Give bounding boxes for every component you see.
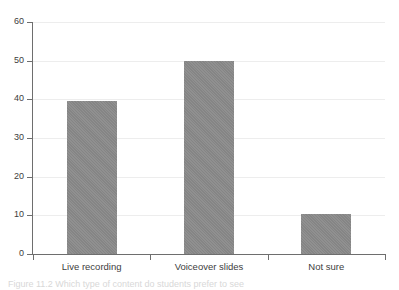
- y-axis-tick: [27, 99, 32, 100]
- y-axis-tick-label-wrap: 40: [0, 94, 24, 103]
- x-axis-category-label: Voiceover slides: [150, 261, 267, 272]
- x-axis-category-label: Live recording: [33, 261, 150, 272]
- y-axis-tick-label: 50: [2, 56, 24, 65]
- y-axis-tick-label-wrap: 10: [0, 210, 24, 219]
- y-axis-tick-label-wrap: 60: [0, 17, 24, 26]
- y-axis-tick-label: 10: [2, 210, 24, 219]
- y-axis-tick-label: 20: [2, 172, 24, 181]
- x-axis-line: [33, 254, 386, 255]
- x-axis-tick: [150, 255, 151, 260]
- bar: [301, 214, 351, 254]
- x-axis-tick: [385, 255, 386, 260]
- y-axis-tick: [27, 61, 32, 62]
- y-axis-tick: [27, 22, 32, 23]
- y-axis-tick: [27, 215, 32, 216]
- x-axis-tick: [268, 255, 269, 260]
- y-axis-tick-label: 60: [2, 17, 24, 26]
- y-axis-tick: [27, 177, 32, 178]
- y-axis-tick-label-wrap: 50: [0, 56, 24, 65]
- gridline: [33, 22, 385, 23]
- y-axis-tick-label: 30: [2, 133, 24, 142]
- y-axis-tick-label-wrap: 30: [0, 133, 24, 142]
- figure-caption: Figure 11.2 Which type of content do stu…: [8, 279, 391, 290]
- plot-area: [33, 22, 385, 254]
- y-axis-tick-label: 0: [2, 249, 24, 258]
- x-axis-category-label: Not sure: [268, 261, 385, 272]
- y-axis-tick-label: 40: [2, 94, 24, 103]
- y-axis-tick: [27, 254, 32, 255]
- x-axis-tick: [33, 255, 34, 260]
- bar: [67, 101, 117, 254]
- y-axis-tick: [27, 138, 32, 139]
- bar: [184, 61, 234, 254]
- y-axis-tick-label-wrap: 0: [0, 249, 24, 258]
- y-axis-tick-label-wrap: 20: [0, 172, 24, 181]
